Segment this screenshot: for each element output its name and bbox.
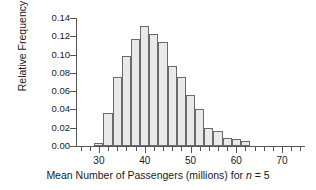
x-tick-mark-minor	[255, 147, 256, 151]
x-tick-mark-major	[236, 147, 237, 153]
x-axis-title-after: = 5	[252, 169, 270, 181]
histogram-bar	[122, 56, 131, 146]
x-tick-mark-minor	[154, 147, 155, 151]
histogram-bar	[168, 66, 177, 146]
x-tick-mark-minor	[136, 147, 137, 151]
x-tick-mark-minor	[209, 147, 210, 151]
x-tick-mark-minor	[227, 147, 228, 151]
y-tick-label: 0.10	[34, 50, 70, 60]
x-tick-label: 40	[125, 155, 165, 166]
histogram-bar	[94, 143, 103, 146]
x-tick-mark-minor	[126, 147, 127, 151]
x-tick-mark-minor	[200, 147, 201, 151]
y-tick-mark	[70, 36, 76, 37]
y-tick-label: 0.00	[34, 141, 70, 151]
y-tick-label: 0.12	[34, 31, 70, 41]
y-tick-mark	[70, 146, 76, 147]
x-tick-mark-minor	[81, 147, 82, 151]
x-tick-mark-minor	[218, 147, 219, 151]
histogram-bar	[232, 139, 241, 146]
x-axis-title-before: Mean Number of Passengers (millions) for	[46, 169, 246, 181]
y-tick-label: 0.06	[34, 86, 70, 96]
histogram-bar	[177, 77, 186, 146]
y-tick-mark	[70, 18, 76, 19]
histogram-bar	[113, 77, 122, 146]
y-axis-tick-labels: 0.000.020.040.060.080.100.120.14	[26, 0, 70, 190]
histogram-bar	[213, 131, 222, 146]
x-tick-label: 50	[171, 155, 211, 166]
y-tick-label: 0.08	[34, 68, 70, 78]
x-tick-mark-major	[145, 147, 146, 153]
x-tick-label: 30	[79, 155, 119, 166]
histogram-bar	[158, 42, 167, 146]
histogram-bar	[131, 39, 140, 146]
y-tick-mark	[70, 91, 76, 92]
x-tick-mark-minor	[245, 147, 246, 151]
x-tick-label: 60	[216, 155, 256, 166]
histogram-bar	[241, 141, 250, 146]
x-tick-mark-minor	[172, 147, 173, 151]
x-tick-label: 70	[262, 155, 302, 166]
x-tick-mark-major	[191, 147, 192, 153]
x-tick-mark-minor	[300, 147, 301, 151]
histogram-bar	[149, 34, 158, 146]
x-tick-mark-minor	[90, 147, 91, 151]
histogram-bar	[195, 109, 204, 146]
y-tick-label: 0.04	[34, 104, 70, 114]
histogram-bar	[204, 128, 213, 146]
y-tick-mark	[70, 73, 76, 74]
histogram-figure: Relative Frequency 0.000.020.040.060.080…	[0, 0, 316, 190]
x-tick-mark-minor	[163, 147, 164, 151]
histogram-bar	[186, 95, 195, 146]
x-tick-mark-minor	[291, 147, 292, 151]
histogram-bar	[103, 113, 112, 146]
y-tick-mark	[70, 128, 76, 129]
y-tick-mark	[70, 55, 76, 56]
x-tick-mark-minor	[117, 147, 118, 151]
x-tick-mark-major	[99, 147, 100, 153]
y-tick-label: 0.02	[34, 123, 70, 133]
y-tick-label: 0.14	[34, 13, 70, 23]
x-axis-title: Mean Number of Passengers (millions) for…	[0, 169, 316, 181]
histogram-bar	[223, 138, 232, 146]
x-tick-mark-minor	[181, 147, 182, 151]
y-tick-mark	[70, 109, 76, 110]
x-tick-mark-major	[282, 147, 283, 153]
histogram-bars	[76, 18, 305, 146]
histogram-bar	[140, 26, 149, 146]
x-tick-mark-minor	[273, 147, 274, 151]
x-tick-mark-minor	[264, 147, 265, 151]
x-tick-mark-minor	[108, 147, 109, 151]
